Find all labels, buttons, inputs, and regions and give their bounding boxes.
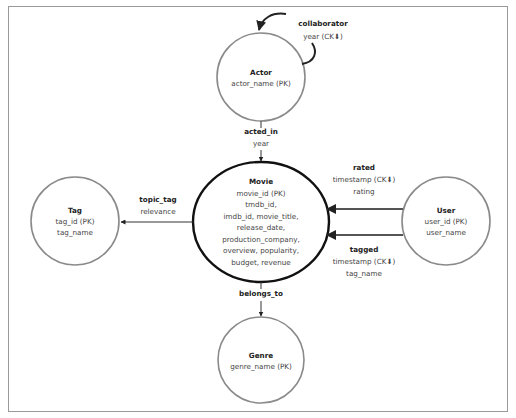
tagged-attr: tag_name bbox=[333, 268, 395, 280]
actor-entity: Actor actor_name (PK) bbox=[231, 67, 290, 89]
acted-in-name: acted_in bbox=[244, 126, 278, 138]
movie-attr: tmdb_id, bbox=[222, 199, 300, 211]
belongs-to-label: belongs_to bbox=[239, 288, 283, 300]
movie-attr: movie_id (PK) bbox=[222, 188, 300, 200]
movie-entity: Movie movie_id (PK) tmdb_id, imdb_id, mo… bbox=[222, 176, 300, 268]
tag-attr: tag_name bbox=[56, 227, 95, 238]
tag-attr: tag_id (PK) bbox=[56, 216, 95, 227]
topic-tag-attr: relevance bbox=[139, 206, 176, 218]
movie-title: Movie bbox=[222, 176, 300, 188]
tagged-attr: timestamp (CK⬇) bbox=[333, 256, 395, 268]
tag-title: Tag bbox=[56, 205, 95, 216]
rated-attr: rating bbox=[333, 186, 395, 198]
rated-attr: timestamp (CK⬇) bbox=[333, 174, 395, 186]
rated-label: rated timestamp (CK⬇) rating bbox=[333, 162, 395, 198]
genre-attr: genre_name (PK) bbox=[230, 361, 292, 372]
movie-attr: production_company, bbox=[222, 234, 300, 246]
genre-title: Genre bbox=[230, 350, 292, 361]
actor-attr: actor_name (PK) bbox=[231, 78, 290, 89]
collaborator-attr: year (CK⬇) bbox=[298, 30, 347, 43]
topic-tag-name: topic_tag bbox=[139, 194, 176, 206]
actor-title: Actor bbox=[231, 67, 290, 78]
movie-attr: release_date, bbox=[222, 222, 300, 234]
user-entity: User user_id (PK) user_name bbox=[425, 205, 468, 238]
belongs-to-name: belongs_to bbox=[239, 288, 283, 300]
tagged-name: tagged bbox=[333, 244, 395, 256]
movie-attr: budget, revenue bbox=[222, 257, 300, 269]
collaborator-loop-edge[interactable] bbox=[259, 14, 286, 30]
user-attr: user_name bbox=[425, 227, 468, 238]
rated-name: rated bbox=[333, 162, 395, 174]
topic-tag-label: topic_tag relevance bbox=[139, 194, 176, 218]
tagged-label: tagged timestamp (CK⬇) tag_name bbox=[333, 244, 395, 280]
acted-in-label: acted_in year bbox=[244, 126, 278, 150]
user-title: User bbox=[425, 205, 468, 216]
tag-entity: Tag tag_id (PK) tag_name bbox=[56, 205, 95, 238]
collaborator-name: collaborator bbox=[298, 17, 347, 30]
user-attr: user_id (PK) bbox=[425, 216, 468, 227]
collaborator-loop-tail bbox=[302, 43, 315, 64]
genre-entity: Genre genre_name (PK) bbox=[230, 350, 292, 372]
collaborator-label: collaborator year (CK⬇) bbox=[298, 17, 347, 43]
acted-in-attr: year bbox=[244, 138, 278, 150]
movie-attr: imdb_id, movie_title, bbox=[222, 211, 300, 223]
movie-attr: overview, popularity, bbox=[222, 245, 300, 257]
